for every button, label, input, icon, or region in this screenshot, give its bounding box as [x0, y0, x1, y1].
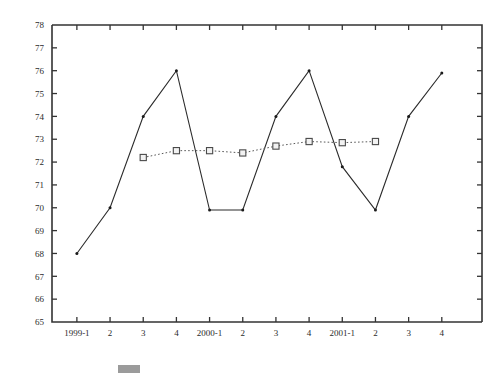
x-tick-label: 2 [373, 328, 378, 338]
series-line-series-solid [77, 71, 442, 254]
x-tick-label: 2001-1 [330, 328, 356, 338]
series-lines [77, 71, 442, 254]
y-tick-label: 77 [35, 43, 45, 53]
data-point-marker [273, 143, 279, 149]
x-tick-label: 2 [241, 328, 246, 338]
y-tick-label: 73 [35, 134, 45, 144]
data-point-marker [173, 148, 179, 154]
y-tick-label: 74 [35, 112, 45, 122]
y-axis-tick-labels: 6566676869707172737475767778 [35, 20, 45, 327]
y-tick-label: 75 [35, 89, 45, 99]
axis-spine-top-right [52, 25, 482, 322]
y-tick-label: 65 [35, 317, 45, 327]
data-point-marker [240, 150, 246, 156]
y-tick-label: 68 [35, 249, 45, 259]
y-tick-label: 71 [35, 180, 44, 190]
data-point-marker [109, 206, 112, 209]
data-point-marker [374, 209, 377, 212]
x-tick-label: 2000-1 [197, 328, 223, 338]
axis-frame [52, 25, 482, 322]
data-point-marker [75, 252, 78, 255]
x-tick-label: 4 [307, 328, 312, 338]
y-tick-label: 70 [35, 203, 45, 213]
data-point-marker [208, 209, 211, 212]
data-point-marker [407, 115, 410, 118]
data-point-marker [339, 140, 345, 146]
y-tick-label: 78 [35, 20, 45, 30]
y-tick-label: 66 [35, 294, 45, 304]
y-tick-label: 67 [35, 272, 45, 282]
x-tick-label: 4 [174, 328, 179, 338]
data-point-marker [241, 209, 244, 212]
x-tick-label: 3 [406, 328, 411, 338]
data-point-marker [372, 138, 378, 144]
data-point-marker [341, 165, 344, 168]
data-point-marker [308, 69, 311, 72]
legend [0, 362, 492, 374]
y-tick-label: 72 [35, 157, 44, 167]
x-axis-tick-labels: 1999-12342000-12342001-1234 [64, 328, 444, 338]
legend-item [118, 365, 147, 373]
y-tick-label: 69 [35, 226, 45, 236]
x-tick-label: 2 [108, 328, 113, 338]
data-point-marker [440, 71, 443, 74]
line-chart: 6566676869707172737475767778 1999-123420… [0, 0, 492, 374]
data-point-marker [142, 115, 145, 118]
data-point-marker [140, 154, 146, 160]
axis-tick-marks [52, 25, 482, 322]
y-tick-label: 76 [35, 66, 45, 76]
axis-spine-left-bottom [52, 25, 482, 322]
legend-swatch-icon [118, 365, 140, 373]
data-point-marker [306, 138, 312, 144]
x-tick-label: 1999-1 [64, 328, 90, 338]
x-tick-label: 3 [141, 328, 146, 338]
data-point-marker [206, 148, 212, 154]
chart-plot-area: 6566676869707172737475767778 1999-123420… [0, 0, 492, 374]
x-tick-label: 3 [274, 328, 279, 338]
data-point-marker [274, 115, 277, 118]
data-point-marker [175, 69, 178, 72]
x-tick-label: 4 [440, 328, 445, 338]
